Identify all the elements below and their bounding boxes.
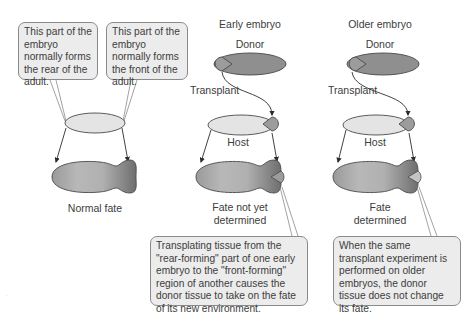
older-host-embryo xyxy=(343,115,414,135)
normal-adult-body xyxy=(52,160,136,193)
early-adult-body xyxy=(196,160,284,193)
early-donor-label: Donor xyxy=(220,38,280,51)
older-adult-body xyxy=(333,160,421,193)
older-donor-embryo xyxy=(347,53,419,75)
older-donor-label: Donor xyxy=(350,38,410,51)
normal-fate-label: Normal fate xyxy=(60,202,130,215)
callout-front-text: This part of the embryo normally forms t… xyxy=(112,26,180,87)
early-donor-embryo xyxy=(214,53,286,75)
older-fate-line2: determined xyxy=(340,214,420,227)
callout-older-result-text: When the same transplant experiment is p… xyxy=(339,240,447,314)
early-fate-line2: determined xyxy=(200,214,280,227)
early-fate-line1: Fate not yet xyxy=(200,201,280,214)
older-embryo-title: Older embryo xyxy=(340,18,420,31)
early-transplant-label: Transplant xyxy=(190,84,248,97)
callout-older-result: When the same transplant experiment is p… xyxy=(333,236,461,306)
older-host-label: Host xyxy=(355,136,395,149)
callout-early-result-text: Transplating tissue from the "rear-formi… xyxy=(156,240,296,314)
callout-early-result: Transplating tissue from the "rear-formi… xyxy=(150,236,308,306)
older-transplant-label: Transplant xyxy=(328,84,386,97)
normal-early-embryo xyxy=(65,113,125,133)
older-fate-line1: Fate xyxy=(340,201,420,214)
early-host-label: Host xyxy=(218,136,258,149)
stray-mark: . xyxy=(6,291,8,297)
early-embryo-title: Early embryo xyxy=(210,18,290,31)
older-callout-pointer xyxy=(417,187,437,236)
early-fate-label: Fate not yet determined xyxy=(200,201,280,226)
callout-rear: This part of the embryo normally forms t… xyxy=(18,22,98,80)
early-callout-pointer xyxy=(280,187,298,236)
early-host-embryo xyxy=(208,115,278,135)
older-fate-label: Fate determined xyxy=(340,201,420,226)
callout-rear-text: This part of the embryo normally forms t… xyxy=(24,26,92,87)
callout-front: This part of the embryo normally forms t… xyxy=(106,22,188,80)
